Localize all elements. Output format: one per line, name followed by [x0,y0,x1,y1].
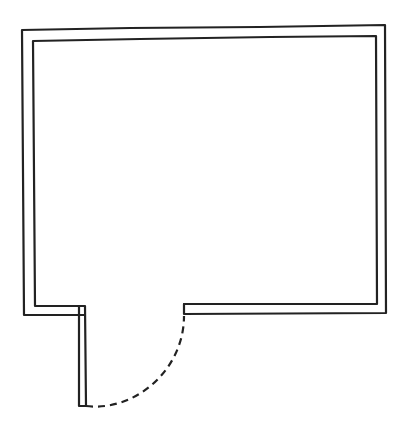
inner-wall [33,36,377,306]
outer-wall [22,25,386,315]
door-swing-arc [86,316,184,407]
floor-plan [0,0,408,433]
door-leaf [79,306,86,406]
